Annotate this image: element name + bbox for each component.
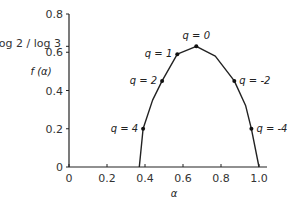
y-axis-label: f (α) (30, 66, 51, 77)
q-point-marker (160, 79, 164, 83)
y-tick-label: 0.8 (46, 8, 64, 21)
x-tick-label: 0 (66, 172, 73, 185)
q-point-marker (194, 44, 198, 48)
q-point-label: q = -2 (239, 75, 270, 86)
y-tick-label: 0.2 (46, 123, 64, 136)
f-alpha-chart: 00.20.40.60.81.000.20.40.60.8log 2 / log… (0, 0, 291, 207)
x-tick-label: 0.8 (212, 172, 230, 185)
f-alpha-curve (139, 46, 259, 167)
q-point-label: q = 0 (183, 30, 210, 41)
x-axis-label: α (171, 188, 178, 199)
x-tick-label: 0.6 (174, 172, 192, 185)
x-tick-label: 0.4 (136, 172, 154, 185)
q-point-label: q = 1 (145, 48, 172, 59)
q-point-label: q = 4 (111, 123, 138, 134)
special-y-tick-label: log 2 / log 3 (0, 37, 61, 50)
q-point-marker (249, 127, 253, 131)
x-tick-label: 1.0 (250, 172, 268, 185)
q-point-marker (232, 79, 236, 83)
q-point-label: q = -4 (256, 123, 287, 134)
y-tick-label: 0 (56, 161, 63, 174)
q-point-marker (141, 127, 145, 131)
q-point-marker (175, 52, 179, 56)
x-tick-label: 0.2 (98, 172, 116, 185)
y-tick-label: 0.4 (46, 85, 64, 98)
q-point-label: q = 2 (130, 75, 157, 86)
